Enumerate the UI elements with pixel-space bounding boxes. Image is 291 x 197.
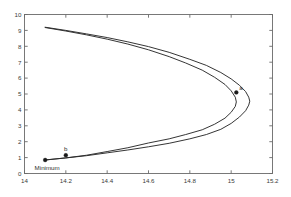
marker-point xyxy=(234,91,238,95)
curve-inner-branch xyxy=(45,28,236,160)
y-tick-label: 10 xyxy=(15,11,22,18)
y-tick-label: 2 xyxy=(18,138,22,145)
chart-figure: 1414.214.414.614.81515.2 012345678910 Mi… xyxy=(0,0,291,197)
y-tick-label: 6 xyxy=(18,74,22,81)
y-tick-label: 3 xyxy=(18,122,22,129)
marker-point xyxy=(64,153,68,157)
x-axis-tick-labels: 1414.214.414.614.81515.2 xyxy=(21,177,279,184)
y-tick-label: 9 xyxy=(18,27,22,34)
x-tick-label: 15 xyxy=(228,177,235,184)
y-axis-tick-labels: 012345678910 xyxy=(15,11,22,177)
y-tick-label: 5 xyxy=(18,90,22,97)
curve-outer-branch xyxy=(45,27,250,160)
x-tick-label: 14 xyxy=(21,177,28,184)
y-tick-label: 4 xyxy=(18,106,22,113)
y-tick-label: 8 xyxy=(18,43,22,50)
plot-canvas: 1414.214.414.614.81515.2 012345678910 Mi… xyxy=(0,0,291,197)
annotation-label: b xyxy=(64,145,68,152)
y-tick-label: 0 xyxy=(18,170,22,177)
y-tick-label: 1 xyxy=(18,154,22,161)
x-tick-label: 15.2 xyxy=(266,177,279,184)
data-curves xyxy=(45,27,250,160)
x-tick-label: 14.4 xyxy=(101,177,114,184)
annotation-label: a xyxy=(239,84,243,91)
annotation-label: Minimum xyxy=(35,164,60,171)
y-tick-label: 7 xyxy=(18,59,22,66)
data-point-markers xyxy=(43,91,238,162)
marker-point xyxy=(43,158,47,162)
x-tick-label: 14.6 xyxy=(142,177,155,184)
x-tick-label: 14.8 xyxy=(184,177,197,184)
x-tick-label: 14.2 xyxy=(60,177,73,184)
